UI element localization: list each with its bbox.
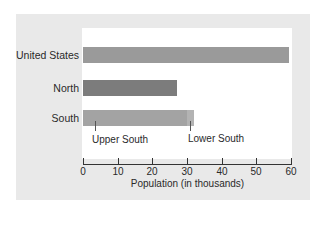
x-tick xyxy=(291,158,292,165)
x-tick xyxy=(256,158,257,165)
x-tick-label: 20 xyxy=(142,166,162,177)
annotation-upper-south: Upper South xyxy=(92,134,148,145)
leader-line-lower-south xyxy=(190,121,191,131)
bar-united-states xyxy=(83,47,289,63)
x-tick-label: 10 xyxy=(108,166,128,177)
x-tick xyxy=(187,158,188,165)
bar-south-upper xyxy=(83,110,187,126)
bar-north xyxy=(83,80,177,96)
x-tick xyxy=(152,158,153,165)
annotation-lower-south: Lower South xyxy=(188,133,244,144)
x-tick-label: 40 xyxy=(212,166,232,177)
x-tick-label: 0 xyxy=(73,166,93,177)
leader-line-upper-south xyxy=(95,121,96,131)
category-label-north: North xyxy=(53,80,79,96)
x-tick xyxy=(83,158,84,165)
x-tick-label: 30 xyxy=(177,166,197,177)
x-axis-title: Population (in thousands) xyxy=(83,178,292,189)
x-tick xyxy=(118,158,119,165)
x-tick xyxy=(222,158,223,165)
category-label-united-states: United States xyxy=(16,47,79,63)
category-label-south: South xyxy=(52,110,79,126)
x-tick-label: 60 xyxy=(281,166,301,177)
x-tick-label: 50 xyxy=(246,166,266,177)
